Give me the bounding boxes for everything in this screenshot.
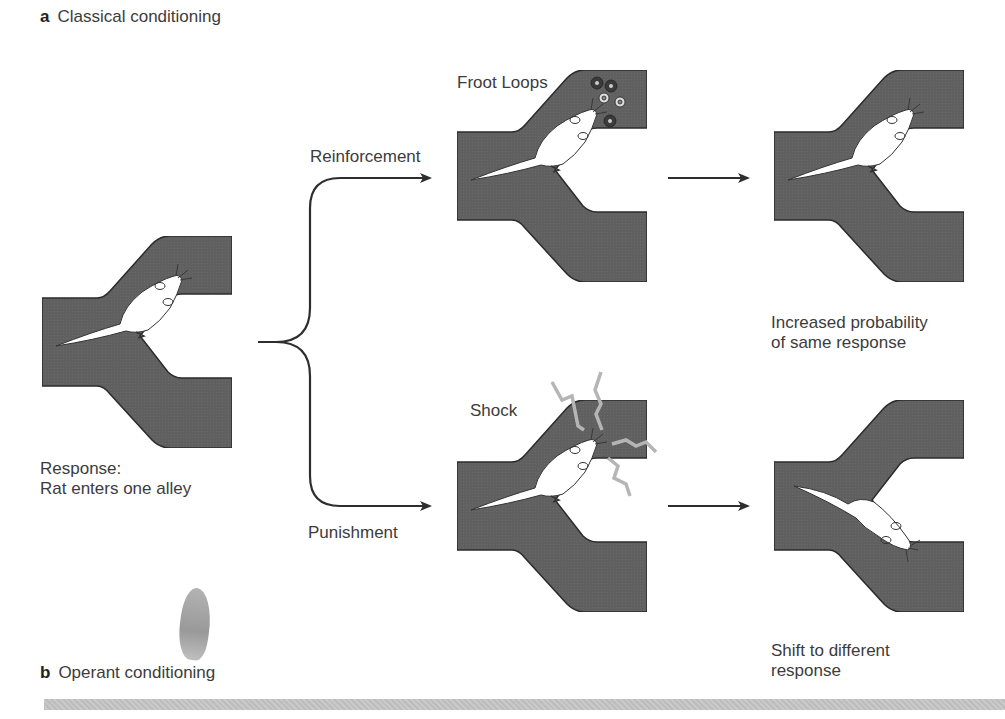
reinforcement-label: Reinforcement: [310, 146, 421, 167]
conditioning-diagram: [0, 0, 1005, 719]
start-caption-line1: Response:: [40, 458, 121, 479]
outcome-different-maze: [774, 400, 964, 612]
start-maze: [42, 236, 232, 448]
outcome-top-line2: of same response: [771, 332, 906, 353]
outcome-bottom-line1: Shift to different: [771, 640, 890, 661]
outcome-bottom-line2: response: [771, 660, 841, 681]
froot-loops-label: Froot Loops: [457, 72, 548, 93]
branch-bracket: [258, 178, 430, 506]
reinforcement-maze: [457, 70, 647, 282]
outcome-same-maze: [774, 70, 964, 282]
shock-label: Shock: [470, 400, 517, 421]
footer-divider-bar: [44, 699, 1005, 710]
punishment-label: Punishment: [308, 522, 398, 543]
outcome-top-line1: Increased probability: [771, 312, 928, 333]
start-caption-line2: Rat enters one alley: [40, 478, 191, 499]
